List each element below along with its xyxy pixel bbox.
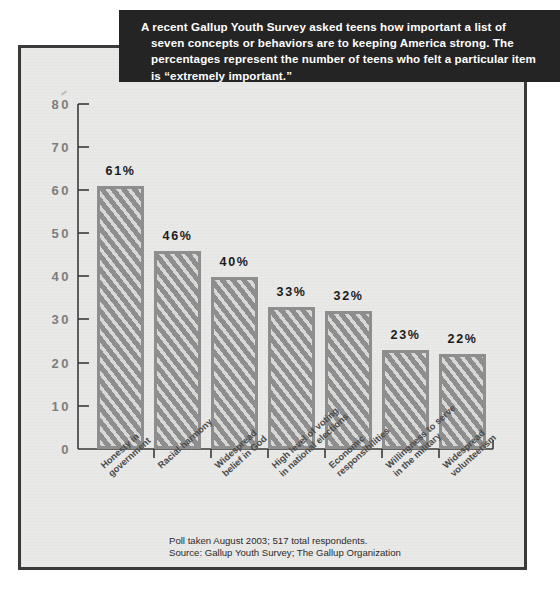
y-tick-label: 40: [27, 269, 71, 284]
caption-line-2: seven concepts or behaviors are to keepi…: [141, 35, 546, 51]
y-tick-label: 0: [27, 442, 71, 457]
bar-value-label: 22%: [433, 332, 492, 346]
y-tick-label: 60: [27, 183, 71, 198]
chart-panel: 80 70 60 50 40 30 20 10 0 61%46%40%33%32…: [18, 45, 527, 570]
bar-value-label: 32%: [319, 289, 378, 303]
caption-line-3: percentages represent the number of teen…: [141, 51, 546, 67]
plot-area: 80 70 60 50 40 30 20 10 0 61%46%40%33%32…: [21, 48, 524, 567]
caption-banner: A recent Gallup Youth Survey asked teens…: [119, 10, 560, 82]
y-tick-label: 10: [27, 399, 71, 414]
y-tick-label: 50: [27, 226, 71, 241]
y-axis-tick-labels: 80 70 60 50 40 30 20 10 0: [21, 48, 71, 567]
y-tick-label: 20: [27, 356, 71, 371]
bar-value-label: 46%: [148, 229, 207, 243]
bar: [211, 277, 258, 450]
bar: [97, 186, 144, 449]
footnote-line-2: Source: Gallup Youth Survey; The Gallup …: [169, 547, 401, 559]
caption-line-4: is “extremely important.”: [141, 68, 546, 84]
bar-value-label: 40%: [205, 255, 264, 269]
bar-value-label: 23%: [376, 328, 435, 342]
y-tick-label: 80: [27, 97, 71, 112]
bar-value-label: 33%: [262, 285, 321, 299]
footnote-line-1: Poll taken August 2003; 517 total respon…: [169, 535, 401, 547]
bar: [154, 251, 201, 449]
bar-value-label: 61%: [91, 164, 150, 178]
footnote: Poll taken August 2003; 517 total respon…: [169, 535, 401, 560]
caption-line-1: A recent Gallup Youth Survey asked teens…: [141, 19, 546, 35]
y-tick-label: 70: [27, 140, 71, 155]
y-tick-label: 30: [27, 312, 71, 327]
